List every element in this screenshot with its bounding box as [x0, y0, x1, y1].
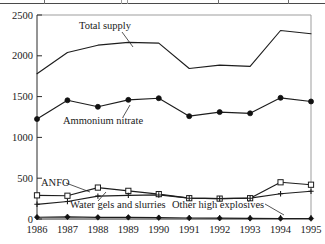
y-tick-label: 500 [17, 173, 33, 184]
x-tick-label: 1990 [148, 224, 169, 235]
leader-anfo [66, 183, 90, 192]
marker-ammonium-nitrate [187, 114, 192, 119]
y-tick-label: 0 [28, 214, 33, 225]
marker-other-high-explosives [156, 215, 161, 221]
annotation-water-gels-and-slurries: Water gels and slurries [70, 199, 166, 210]
marker-ammonium-nitrate [309, 99, 314, 104]
marker-other-high-explosives [217, 215, 222, 221]
x-tick-label: 1992 [209, 224, 230, 235]
annotation-ammonium-nitrate: Ammonium nitrate [63, 115, 144, 126]
marker-other-high-explosives [278, 216, 283, 222]
x-tick-label: 1988 [87, 224, 108, 235]
marker-ammonium-nitrate [217, 110, 222, 115]
series-line-total-supply [37, 31, 311, 74]
marker-ammonium-nitrate [278, 95, 283, 100]
annotation-other-high-explosives: Other high explosives [172, 199, 264, 210]
marker-other-high-explosives [187, 215, 192, 221]
chart-figure: 05001000150020002500 1986198719881989199… [0, 0, 325, 244]
x-tick-label: 1986 [27, 224, 48, 235]
marker-anfo [65, 193, 70, 198]
marker-water-gels-and-slurries [34, 202, 39, 207]
x-tick-label: 1989 [118, 224, 139, 235]
line-chart-plot: 05001000150020002500 1986198719881989199… [0, 0, 325, 244]
marker-ammonium-nitrate [126, 97, 131, 102]
marker-other-high-explosives [308, 216, 313, 222]
annotation-total-supply: Total supply [79, 20, 132, 31]
series-annotations: Total supplyAmmonium nitrateANFOWater ge… [41, 20, 264, 210]
leader-other-high-explosives [265, 204, 284, 215]
x-tick-label: 1991 [179, 224, 200, 235]
marker-anfo [278, 180, 283, 185]
y-tick-label: 2000 [12, 50, 33, 61]
x-axis-tick-labels: 1986198719881989199019911992199319941995 [27, 224, 322, 235]
marker-ammonium-nitrate [65, 98, 70, 103]
leader-total-supply [122, 32, 133, 47]
marker-anfo [95, 185, 100, 190]
y-tick-label: 1000 [12, 132, 33, 143]
marker-water-gels-and-slurries [308, 189, 313, 194]
y-axis-tick-labels: 05001000150020002500 [12, 10, 33, 225]
y-tick-label: 1500 [12, 91, 33, 102]
x-tick-label: 1987 [57, 224, 78, 235]
annotation-anfo: ANFO [41, 177, 70, 188]
marker-ammonium-nitrate [95, 104, 100, 109]
marker-ammonium-nitrate [248, 111, 253, 116]
y-tick-label: 2500 [12, 10, 33, 21]
marker-other-high-explosives [248, 216, 253, 222]
marker-anfo [34, 193, 39, 198]
marker-water-gels-and-slurries [278, 191, 283, 196]
x-tick-label: 1994 [270, 224, 292, 235]
marker-ammonium-nitrate [156, 96, 161, 101]
x-tick-label: 1993 [240, 224, 261, 235]
x-tick-label: 1995 [301, 224, 322, 235]
series-line-other-high-explosives [37, 217, 311, 219]
marker-ammonium-nitrate [35, 117, 40, 122]
marker-anfo [308, 182, 313, 187]
